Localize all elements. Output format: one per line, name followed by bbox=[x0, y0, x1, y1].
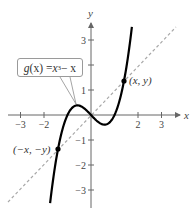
y-tick-label: 3 bbox=[81, 35, 86, 46]
x-tick-label: −2 bbox=[39, 119, 50, 130]
y-tick-label: −1 bbox=[75, 135, 86, 146]
x-tick-labels: −3−223 bbox=[15, 119, 164, 130]
y-tick-label: −2 bbox=[75, 160, 86, 171]
point-positive-label: (x, y) bbox=[129, 74, 152, 87]
x-axis-label: x bbox=[183, 109, 189, 121]
point-negative bbox=[55, 146, 60, 151]
y-tick-label: 1 bbox=[81, 85, 86, 96]
fn-args: (x) = bbox=[30, 62, 53, 74]
x-tick-label: 2 bbox=[136, 119, 141, 130]
callout-pointer bbox=[60, 77, 76, 104]
y-axis-label: y bbox=[87, 7, 93, 19]
x-tick-label: −3 bbox=[15, 119, 26, 130]
point-positive bbox=[121, 78, 126, 83]
y-tick-label: −3 bbox=[75, 185, 86, 196]
x-tick-label: 3 bbox=[159, 119, 164, 130]
function-graph: −3−223 31−1−2−3 x y (x, y) (−x, −y) bbox=[0, 0, 193, 208]
fn-tail: − x bbox=[61, 62, 76, 74]
function-callout: g(x) = x3 − x bbox=[17, 58, 83, 77]
point-negative-label: (−x, −y) bbox=[13, 143, 51, 156]
